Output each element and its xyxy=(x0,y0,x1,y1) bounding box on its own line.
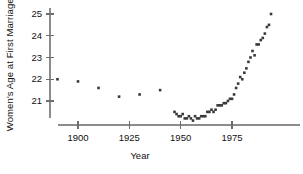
scatter-plot-canvas xyxy=(0,0,303,174)
data-point xyxy=(257,43,260,46)
data-point xyxy=(264,32,267,35)
data-point xyxy=(235,87,238,90)
data-point-group xyxy=(56,13,272,122)
data-point xyxy=(214,108,217,111)
data-point xyxy=(241,78,244,81)
data-point xyxy=(262,37,265,40)
data-point xyxy=(77,80,80,83)
data-point xyxy=(231,98,234,101)
data-point xyxy=(97,87,100,90)
axis-group xyxy=(50,8,300,125)
data-point xyxy=(192,119,195,122)
data-point xyxy=(204,115,207,118)
data-point xyxy=(56,78,59,81)
data-point xyxy=(268,24,271,27)
data-point xyxy=(118,95,121,98)
data-point xyxy=(233,93,236,96)
data-point xyxy=(237,82,240,85)
data-point xyxy=(138,93,141,96)
data-point xyxy=(181,113,184,116)
data-point xyxy=(159,89,162,92)
data-point xyxy=(249,56,252,59)
data-point xyxy=(245,67,248,70)
tick-mark-group xyxy=(46,14,232,129)
data-point xyxy=(270,13,273,16)
data-point xyxy=(247,61,250,64)
chart-figure: Women's Age at First Marriage Year 21222… xyxy=(0,0,303,174)
data-point xyxy=(243,71,246,74)
data-point xyxy=(253,54,256,57)
data-point xyxy=(251,50,254,53)
